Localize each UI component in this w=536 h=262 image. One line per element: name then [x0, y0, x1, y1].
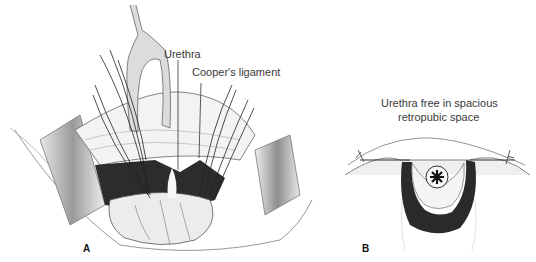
caption-line-1: Urethra free in spacious [381, 97, 498, 109]
figure-panel-a: Urethra Cooper's ligament A [0, 0, 340, 262]
figure-panel-b: Urethra free in spacious retropubic spac… [340, 0, 536, 262]
surgical-illustration-b [340, 0, 536, 262]
label-coopers-ligament: Cooper's ligament [192, 66, 280, 78]
panel-letter-b: B [362, 243, 369, 254]
panel-letter-a: A [83, 243, 90, 254]
surgical-illustration-a [0, 0, 340, 262]
label-urethra: Urethra [164, 48, 201, 60]
caption-line-2: retropubic space [398, 111, 479, 123]
